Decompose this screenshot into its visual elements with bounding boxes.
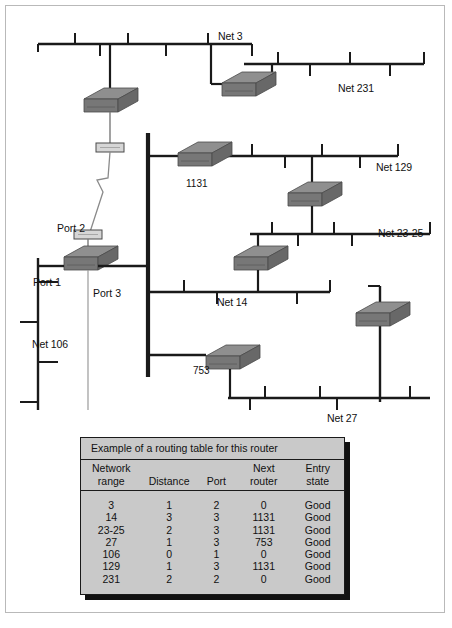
cell-next-router: 1131: [236, 524, 291, 536]
header-line2: state: [291, 475, 344, 488]
label-port3: Port 3: [93, 287, 121, 299]
header-line1: Network: [81, 462, 141, 475]
header-line2: Port: [197, 475, 236, 488]
cell-entry-state: Good: [291, 573, 344, 585]
cell-distance: 1: [141, 499, 196, 511]
cell-entry-state: Good: [291, 536, 344, 548]
label-net27: Net 27: [327, 412, 357, 424]
cell-network-range: 23-25: [81, 524, 141, 536]
routing-table-header: Network range Distance Port: [81, 460, 344, 491]
figure-page: Net 3 Net 231 Net 129 Net 23-25 Net 14 N…: [0, 0, 452, 628]
routing-table-title: Example of a routing table for this rout…: [81, 438, 344, 460]
cell-network-range: 3: [81, 499, 141, 511]
transceiver-upper: [96, 112, 124, 152]
header-line2: Distance: [141, 475, 196, 488]
bus-net27: [228, 386, 430, 410]
cell-port: 2: [197, 499, 236, 511]
header-line2: range: [81, 475, 141, 488]
cell-distance: 1: [141, 560, 196, 572]
cell-next-router: 0: [236, 548, 291, 560]
label-net23-25: Net 23-25: [378, 227, 423, 239]
table-row: 14331131Good: [81, 511, 344, 523]
label-port2: Port 2: [57, 222, 85, 234]
cell-network-range: 231: [81, 573, 141, 585]
cell-entry-state: Good: [291, 499, 344, 511]
header-line1: Next: [236, 462, 291, 475]
label-net129: Net 129: [376, 161, 412, 173]
table-row: 23-25231131Good: [81, 524, 344, 536]
cell-next-router: 1131: [236, 511, 291, 523]
header-line1: [141, 462, 196, 475]
cell-distance: 1: [141, 536, 196, 548]
table-row: 231220Good: [81, 573, 344, 585]
cell-entry-state: Good: [291, 511, 344, 523]
router-icon-net14-bridge: [234, 246, 288, 270]
router-icon-right: [356, 302, 410, 326]
column-header-next-router: Next router: [236, 462, 291, 487]
cell-next-router: 1131: [236, 560, 291, 572]
routing-table: Example of a routing table for this rout…: [80, 437, 345, 595]
column-header-port: Port: [197, 462, 236, 487]
label-router-1131: 1131: [186, 178, 208, 189]
zigzag-cable: [90, 152, 110, 232]
cell-port: 1: [197, 548, 236, 560]
cell-port: 3: [197, 511, 236, 523]
column-header-entry-state: Entry state: [291, 462, 344, 487]
cell-entry-state: Good: [291, 560, 344, 572]
router-icon-753: [206, 345, 260, 369]
cell-next-router: 753: [236, 536, 291, 548]
router-icon-1131: [178, 142, 232, 166]
cell-port: 3: [197, 560, 236, 572]
cell-port: 2: [197, 573, 236, 585]
label-net3: Net 3: [218, 30, 243, 42]
cell-next-router: 0: [236, 573, 291, 585]
table-row: 129131131Good: [81, 560, 344, 572]
label-net106: Net 106: [32, 338, 68, 350]
table-row: 106010Good: [81, 548, 344, 560]
header-line1: Entry: [291, 462, 344, 475]
cell-network-range: 14: [81, 511, 141, 523]
cell-network-range: 106: [81, 548, 141, 560]
router-icon-net231: [222, 72, 276, 96]
routing-table-body: 3120Good14331131Good23-25231131Good27137…: [81, 491, 344, 594]
cell-distance: 2: [141, 573, 196, 585]
cell-port: 3: [197, 524, 236, 536]
label-net14: Net 14: [217, 296, 247, 308]
router-icon-mid: [288, 182, 342, 206]
label-net231: Net 231: [338, 82, 374, 94]
header-line1: [197, 462, 236, 475]
cell-distance: 3: [141, 511, 196, 523]
label-router-753: 753: [193, 365, 210, 376]
cell-entry-state: Good: [291, 524, 344, 536]
cell-next-router: 0: [236, 499, 291, 511]
cell-entry-state: Good: [291, 548, 344, 560]
label-port1: Port 1: [33, 276, 61, 288]
cell-distance: 0: [141, 548, 196, 560]
column-header-network-range: Network range: [81, 462, 141, 487]
router-icon-top: [84, 88, 138, 112]
cell-distance: 2: [141, 524, 196, 536]
table-row: 3120Good: [81, 499, 344, 511]
table-row: 2713753Good: [81, 536, 344, 548]
cell-network-range: 129: [81, 560, 141, 572]
cell-network-range: 27: [81, 536, 141, 548]
cell-port: 3: [197, 536, 236, 548]
column-header-distance: Distance: [141, 462, 196, 487]
header-line2: router: [236, 475, 291, 488]
